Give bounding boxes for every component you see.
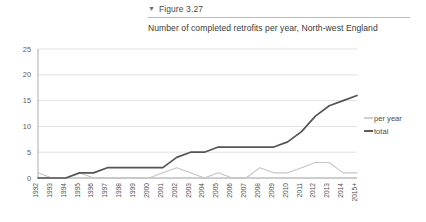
chart-axes bbox=[38, 49, 357, 178]
x-tick-label: 2007 bbox=[240, 183, 247, 198]
header-divider bbox=[148, 17, 410, 18]
figure-caption-label: Figure 3.27 bbox=[159, 4, 203, 14]
figure-header: ▼ Figure 3.27 Number of completed retrof… bbox=[148, 3, 410, 33]
x-axis-tick-labels: 1992199319941995199619971998199920002001… bbox=[32, 183, 358, 202]
x-tick-label: 1992 bbox=[32, 183, 39, 198]
x-tick-label: 2009 bbox=[268, 183, 275, 198]
x-tick-label: 2002 bbox=[171, 183, 178, 198]
legend-label-total[interactable]: total bbox=[374, 127, 389, 136]
x-tick-label: 2003 bbox=[185, 183, 192, 198]
x-tick-label: 2012 bbox=[309, 183, 316, 198]
y-axis-tick-labels: 0510152025 bbox=[23, 45, 31, 183]
chart-series-layer bbox=[38, 95, 357, 178]
x-tick-label: 2013 bbox=[323, 183, 330, 198]
y-tick-label: 0 bbox=[27, 174, 31, 183]
x-tick-label: 1993 bbox=[46, 183, 53, 198]
line-chart: 0510152025 19921993199419951996199719981… bbox=[0, 40, 426, 222]
x-tick-label: 1998 bbox=[115, 183, 122, 198]
series-line-total bbox=[38, 95, 357, 178]
x-tick-label: 2005 bbox=[212, 183, 219, 198]
x-tick-label: 1994 bbox=[60, 183, 67, 198]
figure-caption-row: ▼ Figure 3.27 bbox=[148, 3, 410, 15]
x-tick-label: 1995 bbox=[74, 183, 81, 198]
chart-legend: per yeartotal bbox=[364, 114, 402, 136]
x-tick-label: 2010 bbox=[282, 183, 289, 198]
x-tick-label: 2014 bbox=[337, 183, 344, 198]
x-tick-label: 2008 bbox=[254, 183, 261, 198]
x-tick-label: 2015+ bbox=[351, 183, 358, 202]
x-tick-label: 2004 bbox=[198, 183, 205, 198]
y-tick-label: 10 bbox=[23, 122, 31, 131]
y-tick-label: 5 bbox=[27, 148, 31, 157]
series-line-per-year bbox=[38, 163, 357, 178]
y-tick-label: 15 bbox=[23, 96, 31, 105]
chart-container: 0510152025 19921993199419951996199719981… bbox=[0, 40, 426, 222]
x-tick-label: 1999 bbox=[129, 183, 136, 198]
caret-down-icon[interactable]: ▼ bbox=[148, 5, 155, 12]
y-tick-label: 20 bbox=[23, 70, 31, 79]
x-tick-label: 1997 bbox=[101, 183, 108, 198]
x-tick-label: 1996 bbox=[87, 183, 94, 198]
y-tick-label: 25 bbox=[23, 45, 31, 54]
chart-gridlines bbox=[38, 49, 357, 178]
x-tick-label: 2011 bbox=[296, 183, 303, 198]
legend-label-per-year[interactable]: per year bbox=[374, 114, 402, 123]
figure-title: Number of completed retrofits per year, … bbox=[148, 23, 410, 33]
x-tick-label: 2000 bbox=[143, 183, 150, 198]
x-tick-label: 2006 bbox=[226, 183, 233, 198]
x-tick-label: 2001 bbox=[157, 183, 164, 198]
